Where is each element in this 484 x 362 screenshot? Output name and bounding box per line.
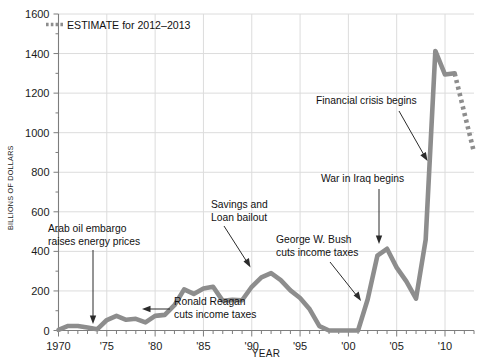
annotation-line-2: Loan bailout [211, 212, 267, 223]
y-tick-label: 1400 [25, 48, 49, 60]
y-tick-label: 1000 [25, 127, 49, 139]
x-tick-label: '75 [100, 340, 114, 352]
x-tick-label: '10 [438, 340, 452, 352]
chart-background [0, 0, 484, 362]
y-tick-label: 1200 [25, 87, 49, 99]
legend-label-estimate: ESTIMATE for 2012–2013 [67, 19, 191, 31]
y-axis-title: BILLIONS OF DOLLARS [6, 145, 15, 230]
x-tick-label: '00 [341, 340, 355, 352]
x-tick-label: 1970 [46, 340, 70, 352]
y-tick-label: 600 [31, 206, 49, 218]
legend: ESTIMATE for 2012–2013 [46, 19, 191, 31]
annotation-line-1: War in Iraq begins [321, 173, 404, 184]
annotation-line-1: Financial crisis begins [316, 95, 417, 106]
y-tick-label: 0 [43, 325, 49, 337]
x-axis-title: YEAR [252, 348, 280, 359]
annotation-line-1: Savings and [211, 199, 268, 210]
annotation-line-1: Arab oil embargo [48, 223, 127, 234]
annotation-line-1: George W. Bush [276, 234, 352, 245]
chart-container: 02004006008001000120014001600 1970'75'80… [0, 0, 484, 362]
annotation-line-2: cuts income taxes [174, 309, 256, 320]
x-tick-label: '05 [390, 340, 404, 352]
annotation-line-2: raises energy prices [48, 236, 140, 247]
x-tick-label: '95 [293, 340, 307, 352]
annotation-line-1: Ronald Reagan [174, 296, 246, 307]
y-tick-label: 200 [31, 285, 49, 297]
y-tick-label: 1600 [25, 8, 49, 20]
x-tick-label: '80 [148, 340, 162, 352]
annotation-line-2: cuts income taxes [276, 247, 358, 258]
x-tick-label: '85 [196, 340, 210, 352]
deficit-line-chart: 02004006008001000120014001600 1970'75'80… [0, 0, 484, 362]
y-tick-label: 800 [31, 166, 49, 178]
y-tick-label: 400 [31, 245, 49, 257]
